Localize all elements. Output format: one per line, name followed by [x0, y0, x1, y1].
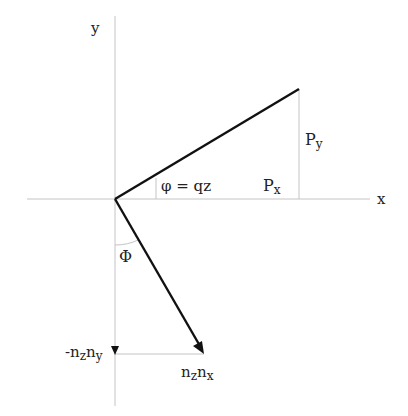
n-vector: [115, 199, 200, 346]
phi-small-label: φ = qz: [161, 177, 211, 195]
diagram-canvas: y x φ = qz Px Py Φ -nzny nznx: [0, 0, 408, 416]
neg-nz-ny-label: -nzny: [65, 343, 103, 363]
x-axis-label: x: [377, 190, 386, 208]
nz-nx-label: nznx: [181, 363, 214, 383]
big-phi-angle-arc: [115, 240, 138, 245]
px-label: Px: [263, 176, 281, 197]
big-phi-label: Φ: [119, 247, 132, 266]
n-vector-arrowhead-icon: [193, 341, 204, 354]
y-axis-label: y: [90, 19, 100, 37]
py-label: Py: [305, 130, 323, 151]
